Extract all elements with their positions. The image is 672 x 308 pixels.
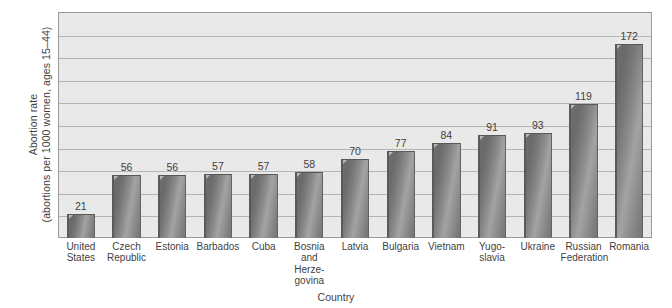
category-label: Ukraine bbox=[515, 241, 561, 252]
bar-slot[interactable]: 21 bbox=[67, 12, 95, 238]
bar-slot[interactable]: 77 bbox=[387, 12, 415, 238]
bar-slot[interactable]: 93 bbox=[524, 12, 552, 238]
category-label: UnitedStates bbox=[58, 241, 104, 264]
y-axis-title-line1: Abortion rate bbox=[27, 20, 40, 230]
bar[interactable] bbox=[478, 135, 506, 238]
bar-slot[interactable]: 119 bbox=[569, 12, 597, 238]
bar-slot[interactable]: 172 bbox=[615, 12, 643, 238]
category-label: Estonia bbox=[149, 241, 195, 252]
category-label-line: govina bbox=[286, 275, 332, 286]
category-label-line: States bbox=[58, 252, 104, 263]
category-label: Latvia bbox=[332, 241, 378, 252]
bar-value-label: 91 bbox=[486, 121, 498, 133]
category-label-line: Barbados bbox=[195, 241, 241, 252]
x-axis-title: Country bbox=[0, 291, 672, 303]
bar-slot[interactable]: 58 bbox=[295, 12, 323, 238]
category-label-line: Czech bbox=[104, 241, 150, 252]
bar[interactable] bbox=[112, 175, 140, 238]
bar-value-label: 93 bbox=[532, 119, 544, 131]
category-label: RussianFederation bbox=[561, 241, 607, 264]
category-label-line: Russian bbox=[561, 241, 607, 252]
category-label: Cuba bbox=[241, 241, 287, 252]
y-axis-title: Abortion rate (abortions per 1000 women,… bbox=[27, 20, 52, 230]
bars-layer: 2156565757587077849193119172 bbox=[58, 12, 652, 238]
bar-value-label: 84 bbox=[441, 129, 453, 141]
bar-value-label: 58 bbox=[303, 158, 315, 170]
category-labels: UnitedStatesCzechRepublicEstoniaBarbados… bbox=[58, 241, 652, 293]
bar-value-label: 57 bbox=[258, 160, 270, 172]
bar-value-label: 172 bbox=[620, 30, 638, 42]
bar[interactable] bbox=[67, 214, 95, 238]
category-label: Yugo-slavia bbox=[469, 241, 515, 264]
category-label-line: Ukraine bbox=[515, 241, 561, 252]
bar[interactable] bbox=[204, 174, 232, 238]
category-label-line: Herze- bbox=[286, 264, 332, 275]
bar-value-label: 57 bbox=[212, 160, 224, 172]
category-label-line: Romania bbox=[606, 241, 652, 252]
category-label-line: Yugo- bbox=[469, 241, 515, 252]
category-label-line: Republic bbox=[104, 252, 150, 263]
category-label-line: Latvia bbox=[332, 241, 378, 252]
category-label-line: Federation bbox=[561, 252, 607, 263]
bar-value-label: 70 bbox=[349, 145, 361, 157]
category-label-line: United bbox=[58, 241, 104, 252]
bar[interactable] bbox=[341, 159, 369, 238]
bar-slot[interactable]: 57 bbox=[249, 12, 277, 238]
bar[interactable] bbox=[432, 143, 460, 238]
bar-slot[interactable]: 56 bbox=[112, 12, 140, 238]
category-label: Barbados bbox=[195, 241, 241, 252]
bar-value-label: 119 bbox=[575, 90, 592, 102]
bar-value-label: 21 bbox=[75, 200, 87, 212]
category-label: Romania bbox=[606, 241, 652, 252]
bar[interactable] bbox=[569, 104, 597, 238]
bar-slot[interactable]: 91 bbox=[478, 12, 506, 238]
category-label-line: Bulgaria bbox=[378, 241, 424, 252]
bar-chart: Abortion rate (abortions per 1000 women,… bbox=[0, 0, 672, 308]
bar-slot[interactable]: 56 bbox=[158, 12, 186, 238]
y-axis-title-line2: (abortions per 1000 women, ages 15–44) bbox=[39, 20, 52, 230]
bar[interactable] bbox=[524, 133, 552, 238]
bar-slot[interactable]: 84 bbox=[432, 12, 460, 238]
category-label-line: Bosnia bbox=[286, 241, 332, 252]
bar[interactable] bbox=[615, 44, 643, 238]
bar-slot[interactable]: 57 bbox=[204, 12, 232, 238]
category-label-line: and bbox=[286, 252, 332, 263]
bar[interactable] bbox=[249, 174, 277, 238]
bar[interactable] bbox=[295, 172, 323, 238]
category-label-line: Cuba bbox=[241, 241, 287, 252]
category-label-line: slavia bbox=[469, 252, 515, 263]
category-label: Vietnam bbox=[424, 241, 470, 252]
category-label-line: Vietnam bbox=[424, 241, 470, 252]
bar-value-label: 56 bbox=[121, 161, 133, 173]
category-label: BosniaandHerze-govina bbox=[286, 241, 332, 287]
bar-value-label: 56 bbox=[166, 161, 178, 173]
bar-slot[interactable]: 70 bbox=[341, 12, 369, 238]
category-label: Bulgaria bbox=[378, 241, 424, 252]
bar[interactable] bbox=[387, 151, 415, 238]
category-label: CzechRepublic bbox=[104, 241, 150, 264]
bar[interactable] bbox=[158, 175, 186, 238]
bar-value-label: 77 bbox=[395, 137, 407, 149]
category-label-line: Estonia bbox=[149, 241, 195, 252]
